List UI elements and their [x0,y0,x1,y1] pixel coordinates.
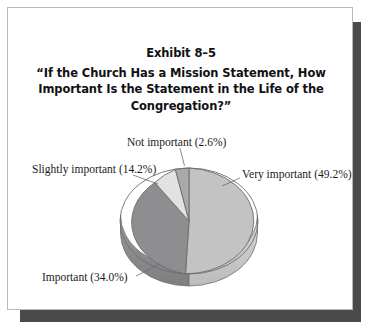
pie-chart-svg [8,8,354,311]
leader-line-not-important [180,148,185,166]
pie-label-important: Important (34.0%) [42,271,128,284]
pie-label-slightly-important: Slightly important (14.2%) [32,163,156,176]
leader-line-slightly [133,175,158,184]
pie-label-not-important: Not important (2.6%) [127,136,226,149]
figure-panel: Exhibit 8–5 “If the Church Has a Mission… [7,7,353,310]
pie-chart: Not important (2.6%) Slightly important … [8,8,354,311]
pie-label-very-important: Very important (49.2%) [242,168,352,181]
figure-stage: Exhibit 8–5 “If the Church Has a Mission… [0,0,375,331]
